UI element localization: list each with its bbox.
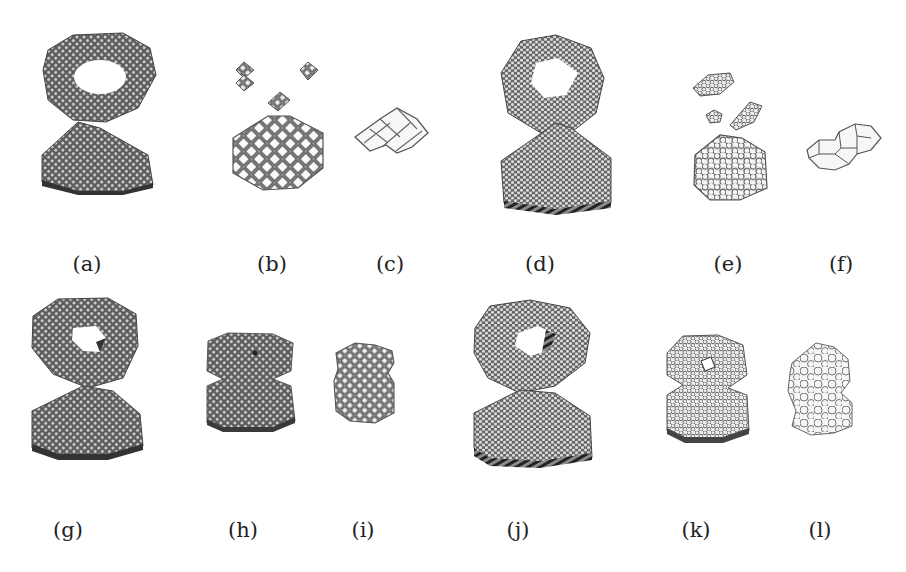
panel-g	[28, 296, 146, 461]
coarse-hexagonal-mesh-shape	[690, 70, 780, 205]
label-j: (j)	[507, 518, 530, 542]
panel-d	[496, 33, 616, 213]
panel-c	[352, 105, 432, 157]
panel-i	[330, 341, 400, 426]
panel-j	[470, 298, 598, 468]
label-d: (d)	[525, 252, 555, 276]
label-c: (c)	[376, 252, 404, 276]
panel-b	[228, 58, 333, 198]
label-i: (i)	[351, 518, 374, 542]
dense-square-mesh-alt-view	[28, 296, 146, 461]
coarse-square-mesh-shape	[228, 58, 333, 198]
coarse-square-mesh-compact	[203, 331, 298, 433]
label-g: (g)	[53, 518, 83, 542]
panel-e	[690, 70, 780, 205]
dense-hexagonal-mesh-alt-view	[470, 298, 598, 468]
dense-square-mesh-shape	[38, 30, 163, 195]
panel-h	[203, 331, 298, 433]
label-h: (h)	[228, 518, 258, 542]
label-a: (a)	[73, 252, 102, 276]
panel-l	[786, 341, 858, 439]
panel-f	[805, 122, 883, 174]
panel-a	[38, 30, 163, 195]
dense-hexagonal-mesh-shape	[496, 33, 616, 213]
coarsest-hexagonal-mesh-shape	[805, 122, 883, 174]
label-f: (f)	[829, 252, 853, 276]
label-b: (b)	[257, 252, 287, 276]
coarsest-square-mesh-compact	[330, 341, 400, 426]
coarse-hexagonal-mesh-compact	[663, 333, 755, 445]
coarsest-square-mesh-shape	[352, 105, 432, 157]
label-l: (l)	[808, 518, 831, 542]
panel-k	[663, 333, 755, 445]
label-k: (k)	[681, 518, 710, 542]
coarsest-polygonal-mesh-compact	[786, 341, 858, 439]
label-e: (e)	[714, 252, 743, 276]
